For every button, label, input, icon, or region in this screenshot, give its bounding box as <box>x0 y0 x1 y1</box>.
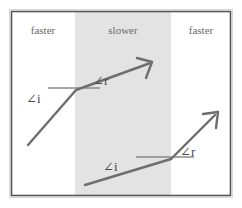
lower-angle-of-refraction-label: ∠r <box>180 144 196 159</box>
slower-medium-band <box>75 12 171 195</box>
figure-canvas: faster slower faster ∠i ∠r <box>0 0 242 208</box>
refraction-diagram: faster slower faster ∠i ∠r <box>0 0 242 208</box>
upper-angle-of-refraction-label: ∠r <box>93 73 109 88</box>
region-label-middle: slower <box>108 24 138 36</box>
region-label-right: faster <box>189 24 214 36</box>
lower-angle-of-incidence-label: ∠i <box>103 159 118 174</box>
region-label-left: faster <box>31 24 56 36</box>
upper-angle-of-incidence-label: ∠i <box>26 91 41 106</box>
